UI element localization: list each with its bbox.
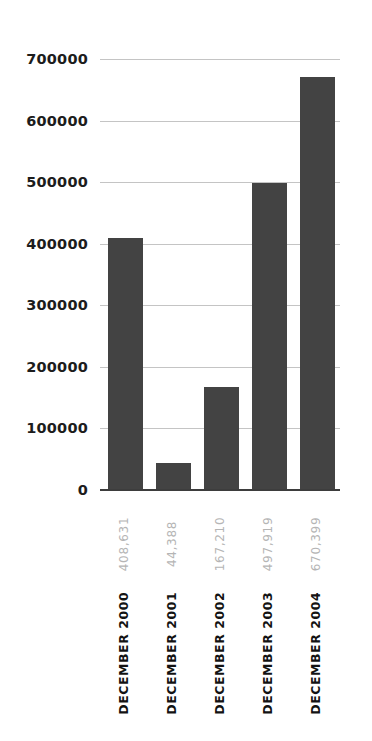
x-axis-category-label: DECEMBER 2000: [118, 592, 131, 715]
x-axis-category-label: DECEMBER 2004: [310, 592, 323, 715]
bar-value-label: 167,210: [214, 517, 226, 572]
y-axis-tick-label: 700000: [4, 52, 88, 67]
x-axis-category-label: DECEMBER 2001: [166, 592, 179, 715]
bar-chart: 0100000200000300000400000500000600000700…: [0, 0, 372, 741]
y-axis-tick-label: 300000: [4, 298, 88, 313]
gridline: [100, 59, 340, 60]
x-axis-label-group: 670,399DECEMBER 2004: [292, 492, 340, 741]
x-axis-label-group: 44,388DECEMBER 2001: [148, 492, 196, 741]
y-axis-tick-labels: 0100000200000300000400000500000600000700…: [0, 0, 88, 741]
bar-value-label: 497,919: [262, 517, 274, 572]
y-axis-tick-label: 400000: [4, 236, 88, 251]
plot-area: [100, 59, 340, 490]
y-axis-tick-label: 100000: [4, 421, 88, 436]
bar-value-label: 408,631: [118, 517, 130, 572]
bar: [300, 77, 335, 490]
x-axis-line: [100, 489, 340, 491]
x-axis-label-group: 408,631DECEMBER 2000: [100, 492, 148, 741]
x-axis-category-label: DECEMBER 2002: [214, 592, 227, 715]
bar: [204, 387, 239, 490]
x-axis-label-group: 497,919DECEMBER 2003: [244, 492, 292, 741]
bar-value-label: 44,388: [166, 521, 178, 567]
y-axis-tick-label: 0: [4, 483, 88, 498]
x-axis-category-label: DECEMBER 2003: [262, 592, 275, 715]
x-axis-label-group: 167,210DECEMBER 2002: [196, 492, 244, 741]
x-axis-category-labels: 408,631DECEMBER 200044,388DECEMBER 20011…: [100, 492, 340, 741]
bar: [252, 183, 287, 490]
y-axis-tick-label: 200000: [4, 360, 88, 375]
bar: [108, 238, 143, 490]
y-axis-tick-label: 500000: [4, 175, 88, 190]
bar: [156, 463, 191, 490]
bar-value-label: 670,399: [310, 517, 322, 572]
y-axis-tick-label: 600000: [4, 113, 88, 128]
